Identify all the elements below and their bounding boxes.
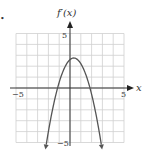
y-axis-arrow-icon xyxy=(67,21,73,28)
curve-left-arrow-icon xyxy=(44,144,49,149)
x-axis-arrow-icon xyxy=(127,85,134,91)
problem-bullet: • xyxy=(0,14,5,23)
derivative-graph-figure: • x f′(x) 5 −5 −5 5 xyxy=(0,0,146,157)
y-axis-label: f′(x) xyxy=(56,7,77,18)
curve-right-arrow-icon xyxy=(99,144,104,149)
x-axis-label: x xyxy=(136,82,142,93)
x-tick-label-right: 5 xyxy=(121,90,126,99)
y-tick-label-bottom: −5 xyxy=(57,139,69,148)
x-tick-label-left: −5 xyxy=(12,90,24,99)
x-axis xyxy=(10,85,134,91)
y-axis xyxy=(67,21,73,146)
y-tick-label-top: 5 xyxy=(62,31,67,40)
